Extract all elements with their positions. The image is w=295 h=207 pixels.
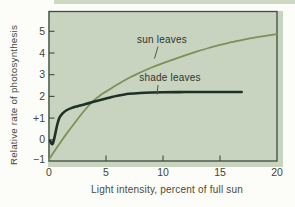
x-tick-label: 15 (214, 166, 226, 178)
y-axis-title: Relative rate of photosynthesis (8, 25, 19, 165)
chart-canvas: 05101520−10+12345 (0, 0, 295, 207)
series-label-sun-leaves: sun leaves (137, 34, 187, 45)
series-label-shade-leaves: shade leaves (139, 72, 200, 83)
y-tick-label: 0 (39, 133, 45, 145)
y-tick-label: 4 (39, 47, 45, 59)
x-tick-label: 5 (103, 166, 109, 178)
x-axis-title: Light intensity, percent of full sun (91, 184, 243, 195)
photosynthesis-light-chart: 05101520−10+12345 sun leaves shade leave… (0, 0, 295, 207)
x-tick-label: 20 (271, 166, 283, 178)
y-tick-label: 3 (39, 68, 45, 80)
y-tick-label: 2 (39, 90, 45, 102)
x-tick-label: 0 (46, 166, 52, 178)
y-tick-label: 5 (39, 25, 45, 37)
y-tick-label: −1 (33, 153, 45, 165)
sun-leaves-leader-line (155, 47, 159, 59)
x-tick-label: 10 (157, 166, 169, 178)
series-line-sun-leaves (49, 34, 277, 159)
y-tick-label: +1 (33, 112, 45, 124)
